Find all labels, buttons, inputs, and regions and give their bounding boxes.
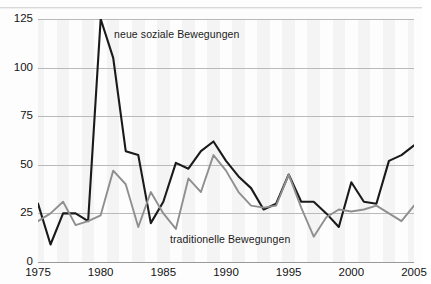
series-lines [38, 19, 414, 262]
x-tick-label-1975: 1975 [15, 266, 61, 278]
page-rule-top-shadow [0, 8, 422, 9]
gridline-0 [38, 262, 414, 263]
x-tick-label-1980: 1980 [78, 266, 124, 278]
x-tick-label-1985: 1985 [140, 266, 186, 278]
y-tick-label-75: 75 [1, 109, 33, 121]
y-tick-label-100: 100 [1, 61, 33, 73]
series-label-neue-soziale-bewegungen: neue soziale Bewegungen [114, 28, 239, 40]
x-tick-label-1990: 1990 [203, 266, 249, 278]
x-tick-label-2005: 2005 [391, 266, 431, 278]
series-line-traditionelle-bewegungen [38, 155, 414, 237]
y-tick-label-50: 50 [1, 158, 33, 170]
x-tick-label-1995: 1995 [266, 266, 312, 278]
plot-area [38, 19, 414, 262]
x-tick-label-2000: 2000 [328, 266, 374, 278]
y-tick-label-125: 125 [1, 12, 33, 24]
y-tick-label-25: 25 [1, 206, 33, 218]
series-label-traditionelle-bewegungen: traditionelle Bewegungen [170, 233, 290, 245]
